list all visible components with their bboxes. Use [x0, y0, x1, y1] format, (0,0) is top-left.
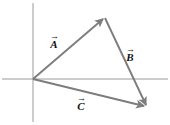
- vector-diagram-canvas: [0, 0, 170, 125]
- vector-b-label: → B: [126, 47, 134, 63]
- vector-c-label: → C: [77, 96, 85, 112]
- vector-a-label: → A: [50, 34, 58, 50]
- vector-c-letter: C: [77, 101, 85, 112]
- vector-c-arrow: [33, 79, 144, 106]
- vector-a-arrow: [33, 19, 103, 79]
- vector-b-letter: B: [126, 52, 134, 63]
- vector-a-letter: A: [50, 39, 58, 50]
- vector-diagram-figure: → A → B → C: [0, 0, 170, 125]
